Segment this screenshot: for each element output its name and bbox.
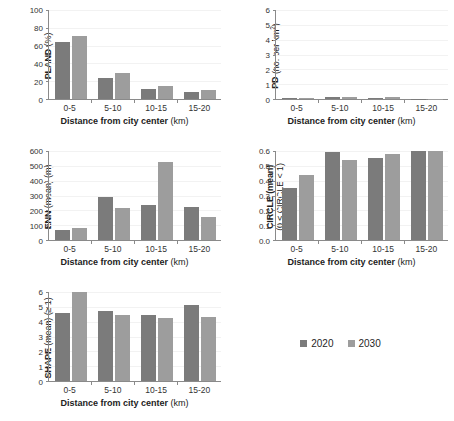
- plot-area-shape: 0123456: [26, 292, 221, 382]
- x-axis-title-unit: (km): [168, 116, 189, 126]
- bar-group: [276, 10, 319, 99]
- bar-circle-15-20-2020: [411, 151, 426, 240]
- bar-group: [405, 151, 448, 240]
- bar-series-circle: [276, 151, 448, 240]
- x-tick-label: 0-5: [275, 244, 318, 254]
- x-tick-label: 10-15: [362, 244, 405, 254]
- bar-series-pland: [49, 10, 221, 99]
- chart-legend: 20202030: [227, 338, 454, 349]
- bar-pland-0-5-2030: [72, 36, 87, 99]
- x-tick-label: 5-10: [318, 103, 361, 113]
- bar-pland-0-5-2020: [55, 42, 70, 99]
- plot-box-pd: [275, 10, 448, 100]
- x-tick-label: 0-5: [48, 103, 91, 113]
- x-tick-label: 15-20: [405, 244, 448, 254]
- y-tick-label: 0: [39, 96, 43, 105]
- chart-panel-shape: SHAPE (mean) (≥ 1)01234560-55-1010-1515-…: [0, 284, 227, 421]
- x-tick-label: 15-20: [178, 244, 221, 254]
- y-tick-label: 3: [266, 51, 270, 60]
- legend-swatch-icon: [348, 340, 355, 347]
- legend-2020: 2020: [300, 338, 333, 349]
- y-tick-label: 5: [39, 303, 43, 312]
- x-tick-label: 15-20: [405, 103, 448, 113]
- bar-shape-15-20-2030: [201, 317, 216, 381]
- bar-shape-10-15-2020: [141, 315, 156, 381]
- bar-circle-0-5-2030: [299, 175, 314, 240]
- bar-shape-0-5-2020: [55, 313, 70, 381]
- bar-enn-15-20-2020: [184, 207, 199, 240]
- chart-panel-pd: PD (no. per km2)01234560-55-1010-1515-20…: [227, 2, 454, 141]
- x-tick-label: 5-10: [91, 244, 134, 254]
- plot-box-pland: [48, 10, 221, 100]
- x-axis-title-enn: Distance from city center (km): [26, 257, 223, 267]
- bar-circle-5-10-2020: [325, 152, 340, 240]
- x-tick-label: 10-15: [135, 103, 178, 113]
- bar-group: [178, 151, 221, 240]
- chart-panel-enn: ENN (mean) (m)01002003004005006000-55-10…: [0, 143, 227, 282]
- y-tick-label: 1: [266, 81, 270, 90]
- bar-group: [405, 10, 448, 99]
- y-tick-labels-circle: 0.00.10.20.30.40.50.6: [253, 151, 273, 241]
- y-tick-labels-shape: 0123456: [26, 292, 46, 382]
- bar-circle-10-15-2020: [368, 158, 383, 240]
- legend-2030: 2030: [348, 338, 381, 349]
- y-tick-label: 600: [30, 147, 43, 156]
- y-tick-label: 100: [30, 222, 43, 231]
- y-tick-label: 80: [34, 24, 43, 33]
- y-tick-label: 1: [39, 363, 43, 372]
- chart-panel-pland: PLAND (%)0204060801000-55-1010-1515-20Di…: [0, 2, 227, 141]
- bar-group: [49, 292, 92, 381]
- bar-enn-10-15-2020: [141, 205, 156, 240]
- x-axis-title-circle: Distance from city center (km): [253, 257, 450, 267]
- y-tick-label: 6: [39, 288, 43, 297]
- y-tick-labels-pland: 020406080100: [26, 10, 46, 100]
- plot-box-shape: [48, 292, 221, 382]
- x-axis-title-bold: Distance from city center: [60, 257, 168, 267]
- x-tick-label: 10-15: [135, 385, 178, 395]
- y-tick-label: 0.0: [259, 237, 270, 246]
- y-tick-label: 0.1: [259, 222, 270, 231]
- y-tick-label: 0.4: [259, 177, 270, 186]
- y-tick-label: 0: [266, 96, 270, 105]
- chart-panel-circle: CIRCLE (mean)(0 ≤ CIRCLE < 1)0.00.10.20.…: [227, 143, 454, 282]
- plot-area-pland: 020406080100: [26, 10, 221, 100]
- y-tick-label: 300: [30, 192, 43, 201]
- y-tick-label: 100: [30, 6, 43, 15]
- x-axis-title-unit: (km): [168, 257, 189, 267]
- bar-group: [49, 10, 92, 99]
- bar-enn-0-5-2020: [55, 230, 70, 240]
- legend-swatch-icon: [300, 340, 307, 347]
- bar-enn-0-5-2030: [72, 228, 87, 240]
- x-axis-title-bold: Distance from city center: [287, 257, 395, 267]
- y-tick-label: 4: [39, 318, 43, 327]
- y-tick-label: 20: [34, 78, 43, 87]
- plot-area-circle: 0.00.10.20.30.40.50.6: [253, 151, 448, 241]
- bar-pland-15-20-2020: [184, 92, 199, 99]
- bar-pland-5-10-2020: [98, 78, 113, 99]
- x-tick-label: 10-15: [362, 103, 405, 113]
- x-axis-title-pland: Distance from city center (km): [26, 116, 223, 126]
- y-tick-label: 2: [39, 348, 43, 357]
- x-axis-title-bold: Distance from city center: [60, 116, 168, 126]
- bar-series-enn: [49, 151, 221, 240]
- bar-shape-5-10-2020: [98, 311, 113, 381]
- x-tick-label: 15-20: [178, 385, 221, 395]
- bar-series-shape: [49, 292, 221, 381]
- bar-pland-10-15-2030: [158, 86, 173, 99]
- y-tick-label: 5: [266, 21, 270, 30]
- bar-group: [135, 151, 178, 240]
- bar-shape-5-10-2030: [115, 315, 130, 381]
- y-tick-label: 0.2: [259, 207, 270, 216]
- bar-series-pd: [276, 10, 448, 99]
- y-tick-label: 4: [266, 36, 270, 45]
- plot-area-enn: 0100200300400500600: [26, 151, 221, 241]
- chart-grid: PLAND (%)0204060801000-55-1010-1515-20Di…: [0, 0, 454, 421]
- bar-enn-5-10-2020: [98, 197, 113, 240]
- bar-enn-15-20-2030: [201, 217, 216, 240]
- x-axis-title-unit: (km): [168, 398, 189, 408]
- bar-circle-5-10-2030: [342, 160, 357, 240]
- bar-group: [178, 292, 221, 381]
- bar-group: [178, 10, 221, 99]
- y-tick-labels-enn: 0100200300400500600: [26, 151, 46, 241]
- x-tick-label: 10-15: [135, 244, 178, 254]
